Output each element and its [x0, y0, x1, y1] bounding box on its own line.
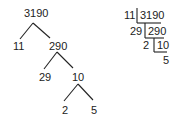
branch-290-to-29: [44, 52, 57, 69]
factor-tree-branches: [20, 23, 93, 101]
prime-factorization-figure: 3190 11 290 29 10 2 5 11 3190 29 290 2 1…: [0, 0, 182, 120]
branch-3190-to-290: [33, 23, 50, 38]
branch-10-to-2: [64, 84, 78, 101]
tree-node-29: 29: [39, 72, 51, 83]
tree-node-11: 11: [13, 41, 24, 52]
tree-node-10: 10: [72, 72, 84, 83]
ladder-dividend-2: 290: [148, 26, 166, 37]
ladder-dividend-1: 3190: [140, 10, 164, 21]
ladder-quotient: 5: [163, 55, 169, 66]
ladder-dividend-3: 10: [157, 40, 169, 51]
ladder-divisor-3: 2: [143, 40, 149, 51]
branch-3190-to-11: [20, 23, 33, 39]
tree-leaf-5: 5: [91, 105, 97, 116]
tree-root-3190: 3190: [24, 8, 48, 19]
ladder-divisor-1: 11: [124, 10, 135, 21]
branch-290-to-10: [57, 52, 73, 68]
branch-10-to-5: [78, 84, 93, 100]
ladder-divisor-2: 29: [130, 26, 142, 37]
tree-node-290: 290: [49, 41, 67, 52]
tree-leaf-2: 2: [62, 105, 68, 116]
